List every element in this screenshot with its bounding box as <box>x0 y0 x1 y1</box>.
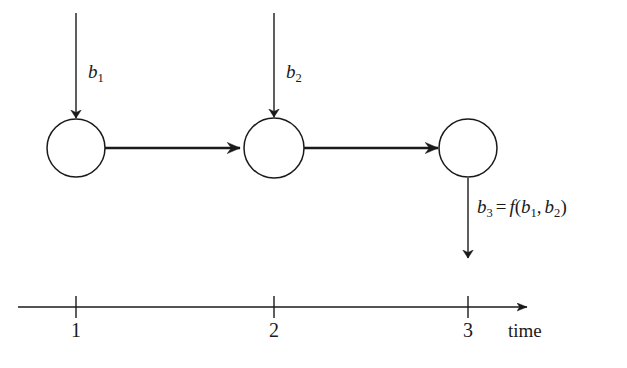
input-label-b2-base: b <box>286 61 296 82</box>
output-label-equals: = <box>493 196 510 217</box>
output-label-b-subscript: 3 <box>487 206 493 220</box>
output-label-b-base: b <box>477 196 487 217</box>
input-label-b1-subscript: 1 <box>98 71 104 85</box>
output-label-b3-equation: b3=f(b1,b2) <box>477 197 567 216</box>
output-label-comma: , <box>537 196 545 217</box>
axis-tick-label-1: 1 <box>66 320 86 340</box>
node-circle-1[interactable] <box>47 119 105 177</box>
axis-tick-label-2: 2 <box>264 320 284 340</box>
diagram-svg <box>0 0 627 368</box>
node-circle-2[interactable] <box>244 118 304 178</box>
axis-label-time: time <box>508 321 542 340</box>
input-arrow-group <box>76 13 274 118</box>
input-label-b2-subscript: 2 <box>296 71 302 85</box>
output-label-arg1-base: b <box>521 196 531 217</box>
input-label-b1: b1 <box>88 62 104 81</box>
input-label-b2: b2 <box>286 62 302 81</box>
axis-tick-label-3: 3 <box>458 320 478 340</box>
output-label-arg2-base: b <box>545 196 555 217</box>
figure-canvas: b1 b2 b3=f(b1,b2) 1 2 3 time <box>0 0 627 368</box>
output-label-close-paren: ) <box>560 196 566 217</box>
node-circle-3[interactable] <box>439 119 497 177</box>
time-axis-group <box>18 296 527 318</box>
input-label-b1-base: b <box>88 61 98 82</box>
output-label-arg1-subscript: 1 <box>531 206 537 220</box>
